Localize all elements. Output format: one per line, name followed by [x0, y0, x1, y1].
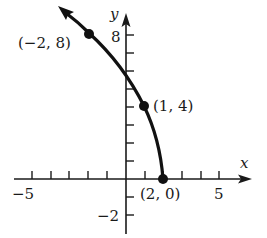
- graph: y x 8 −2 −5 5 (−2, 8) (1, 4) (2, 0): [0, 0, 267, 238]
- x-tick-label-5: 5: [214, 185, 224, 203]
- x-axis-label: x: [240, 154, 249, 172]
- y-tick-label-neg2: −2: [97, 207, 119, 225]
- point-label-1-4: (1, 4): [153, 97, 193, 115]
- y-axis-label: y: [109, 5, 119, 23]
- point-label-neg2-8: (−2, 8): [18, 34, 71, 52]
- point-1-4: [139, 101, 149, 111]
- y-ticks: [126, 35, 134, 215]
- point-label-2-0: (2, 0): [140, 185, 180, 203]
- point-neg2-8: [84, 29, 94, 39]
- y-tick-label-8: 8: [111, 28, 121, 46]
- x-tick-label-neg5: −5: [12, 185, 34, 203]
- point-2-0: [158, 174, 168, 184]
